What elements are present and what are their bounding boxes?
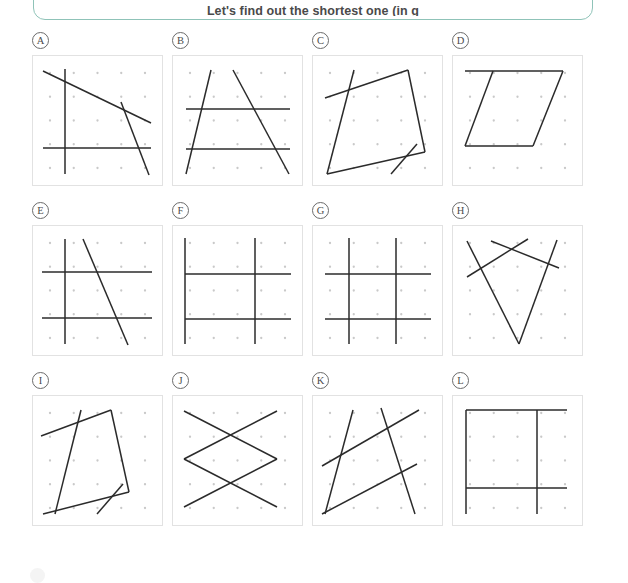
panel-e-canvas[interactable]	[32, 225, 163, 356]
lattice-dot	[540, 483, 542, 485]
lattice-dot	[144, 412, 146, 414]
lattice-dot	[144, 337, 146, 339]
lattice-dot	[96, 119, 98, 121]
lattice-dot	[400, 242, 402, 244]
lattice-dot	[540, 96, 542, 98]
panel-g-canvas[interactable]	[312, 225, 443, 356]
line-segment	[381, 408, 415, 514]
lattice-dot	[213, 96, 215, 98]
line-segment	[491, 241, 559, 268]
panel-g[interactable]: G	[310, 202, 450, 372]
panel-f-canvas[interactable]	[172, 225, 303, 356]
lattice-dot	[260, 266, 262, 268]
panel-k[interactable]: K	[310, 372, 450, 542]
lattice-dot	[236, 289, 238, 291]
lattice-dot	[540, 72, 542, 74]
lattice-dot	[376, 96, 378, 98]
lattice-dot	[284, 313, 286, 315]
lattice-dot	[284, 459, 286, 461]
lattice-dot	[540, 266, 542, 268]
panel-a-canvas[interactable]	[32, 55, 163, 186]
lattice-dot	[516, 507, 518, 509]
lattice-dot	[260, 436, 262, 438]
panel-g-label: G	[312, 202, 329, 219]
lattice-dot	[493, 96, 495, 98]
lattice-dot	[376, 313, 378, 315]
lattice-dot	[376, 507, 378, 509]
panel-h[interactable]: H	[450, 202, 590, 372]
lattice-dot	[564, 266, 566, 268]
panel-c-canvas[interactable]	[312, 55, 443, 186]
lattice-dot	[353, 313, 355, 315]
lattice-dot	[144, 436, 146, 438]
lattice-dot	[564, 143, 566, 145]
lattice-dot	[260, 167, 262, 169]
lattice-dot	[516, 289, 518, 291]
lattice-dot	[144, 72, 146, 74]
lattice-dot	[493, 119, 495, 121]
lattice-dot	[353, 289, 355, 291]
lattice-dot	[120, 242, 122, 244]
lattice-dot	[73, 412, 75, 414]
lattice-dot	[516, 459, 518, 461]
lattice-dot	[564, 483, 566, 485]
lattice-dot	[73, 143, 75, 145]
lattice-dot	[376, 167, 378, 169]
panel-d[interactable]: D	[450, 32, 590, 202]
lattice-dot	[260, 313, 262, 315]
lattice-dot	[516, 96, 518, 98]
line-segment	[233, 70, 289, 174]
lattice-dot	[236, 337, 238, 339]
panel-k-canvas[interactable]	[312, 395, 443, 526]
lattice-dot	[493, 167, 495, 169]
lattice-dot	[49, 119, 51, 121]
lattice-dot	[564, 507, 566, 509]
panel-i-label: I	[32, 372, 49, 389]
panel-d-canvas[interactable]	[452, 55, 583, 186]
panel-i-canvas[interactable]	[32, 395, 163, 526]
panel-j[interactable]: J	[170, 372, 310, 542]
panel-f[interactable]: F	[170, 202, 310, 372]
lattice-dot	[376, 72, 378, 74]
panel-a-label: A	[32, 32, 49, 49]
panel-b[interactable]: B	[170, 32, 310, 202]
line-segment	[519, 240, 557, 344]
panel-h-canvas[interactable]	[452, 225, 583, 356]
panel-e[interactable]: E	[30, 202, 170, 372]
panel-a[interactable]: A	[30, 32, 170, 202]
lattice-dot	[120, 266, 122, 268]
line-segment	[322, 410, 419, 466]
lattice-dot	[120, 289, 122, 291]
lattice-dot	[329, 436, 331, 438]
panel-b-canvas[interactable]	[172, 55, 303, 186]
panel-l[interactable]: L	[450, 372, 590, 542]
line-segment	[533, 71, 563, 146]
panel-k-label: K	[312, 372, 329, 389]
lattice-dot	[493, 459, 495, 461]
lattice-dot	[213, 483, 215, 485]
lattice-dot	[376, 119, 378, 121]
lattice-dot	[424, 119, 426, 121]
lattice-dot	[120, 412, 122, 414]
lattice-dot	[400, 96, 402, 98]
lattice-dot	[564, 313, 566, 315]
panel-i[interactable]: I	[30, 372, 170, 542]
lattice-dot	[73, 242, 75, 244]
lattice-dot	[236, 167, 238, 169]
panel-c[interactable]: C	[310, 32, 450, 202]
lattice-dot	[49, 412, 51, 414]
panel-l-canvas[interactable]	[452, 395, 583, 526]
lattice-dot	[260, 96, 262, 98]
lattice-dot	[144, 242, 146, 244]
lattice-dot	[260, 412, 262, 414]
lattice-dot	[516, 72, 518, 74]
lattice-dot	[49, 337, 51, 339]
lattice-dot	[284, 242, 286, 244]
lattice-dot	[284, 337, 286, 339]
lattice-dot	[353, 483, 355, 485]
lattice-dot	[564, 167, 566, 169]
panel-j-canvas[interactable]	[172, 395, 303, 526]
lattice-dot	[400, 313, 402, 315]
lattice-dot	[96, 289, 98, 291]
lattice-dot	[329, 337, 331, 339]
